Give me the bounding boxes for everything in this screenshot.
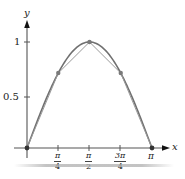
sine-curve: [27, 42, 152, 148]
x-axis-label: x: [172, 142, 178, 152]
data-point: [119, 71, 123, 75]
x-axis-arrow-icon: [162, 145, 170, 151]
data-point: [56, 71, 60, 75]
y-tick-label-1: 1: [14, 37, 20, 47]
polygonal-approximation-line: [27, 42, 152, 148]
data-point: [25, 146, 30, 151]
bottom-shadow-divider: [14, 164, 174, 167]
x-tick-label-pi-over-2: π 2: [85, 152, 92, 171]
y-axis-label: y: [24, 8, 30, 18]
x-tick-label-3pi-over-4: 3π 4: [114, 152, 126, 171]
axes: [14, 20, 170, 158]
x-tick-label-pi-over-4: π 4: [54, 152, 61, 171]
chart-canvas: [0, 0, 185, 179]
plot-area: [25, 40, 155, 151]
x-tick-label-pi: π: [148, 152, 154, 161]
y-tick-label-0.5: 0.5: [3, 92, 19, 102]
data-point: [150, 146, 155, 151]
y-axis-arrow-icon: [24, 20, 30, 28]
data-point: [87, 40, 91, 44]
